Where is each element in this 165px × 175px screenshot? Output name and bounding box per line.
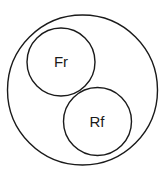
outer-circle bbox=[8, 15, 158, 165]
label-rf: Rf bbox=[90, 113, 106, 130]
venn-diagram: Fr Rf bbox=[0, 0, 165, 175]
label-fr: Fr bbox=[54, 53, 68, 70]
